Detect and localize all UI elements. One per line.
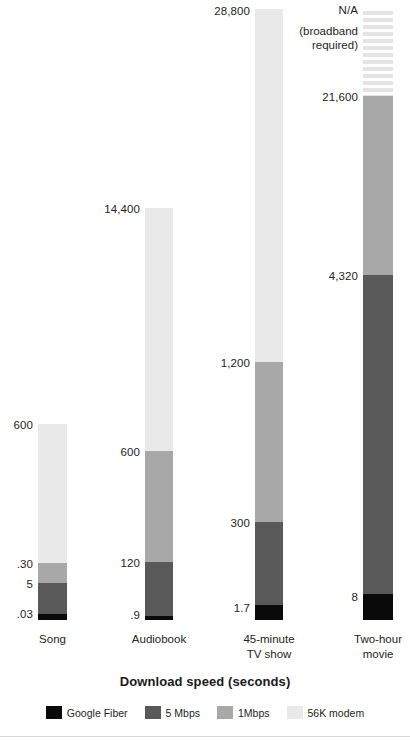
category-label-line1: Two-hour <box>318 632 410 647</box>
category-label-tv-show: 45-minute TV show <box>209 632 329 662</box>
legend-swatch-icon <box>145 706 161 719</box>
axis-title: Download speed (seconds) <box>0 674 410 689</box>
chart-legend: Google Fiber 5 Mbps 1Mbps 56K modem <box>0 706 410 719</box>
segment-value-label: 4,320 <box>329 271 358 283</box>
category-label-line1: 45-minute <box>209 632 329 647</box>
segment-56k-modem: 28,800 <box>255 9 283 362</box>
segment-google-fiber: .03 <box>38 614 67 620</box>
category-label-two-hour-movie: Two-hour movie <box>318 632 410 662</box>
segment-google-fiber: 8 <box>363 594 393 620</box>
legend-label: 1Mbps <box>238 707 270 719</box>
category-label-audiobook: Audiobook <box>99 632 219 647</box>
segment-1mbps: 21,600 <box>363 96 393 275</box>
segment-value-label: 600 <box>14 420 34 432</box>
download-speed-chart: 600 .30 5 .03 Song 14,400 <box>0 0 410 740</box>
category-label-song: Song <box>0 632 112 647</box>
segment-google-fiber: .9 <box>145 616 173 620</box>
segment-1mbps: 1,200 <box>255 362 283 522</box>
bar-group-two-hour-movie: N/A (broadband required) 21,600 4,320 8 … <box>363 0 393 628</box>
legend-item-google-fiber[interactable]: Google Fiber <box>46 706 128 719</box>
legend-label: 5 Mbps <box>166 707 200 719</box>
stacked-bar-audiobook: 14,400 600 120 .9 <box>145 208 173 620</box>
bar-group-audiobook: 14,400 600 120 .9 Audiobook <box>145 0 173 628</box>
segment-56k-modem-na: N/A (broadband required) <box>363 8 393 96</box>
segment-1mbps: 600 <box>145 451 173 562</box>
footer-divider <box>0 736 410 737</box>
segment-value-label: 600 <box>121 447 141 459</box>
segment-1mbps: .30 <box>38 563 67 583</box>
segment-value-label: 1,200 <box>221 358 250 370</box>
segment-google-fiber: 1.7 <box>255 605 283 620</box>
segment-value-label: .03 <box>17 609 33 621</box>
segment-5mbps: 120 <box>145 562 173 616</box>
stacked-bar-song: 600 .30 5 .03 <box>38 424 67 620</box>
stacked-bar-tv-show: 28,800 1,200 300 1.7 <box>255 9 283 620</box>
segment-5mbps: 300 <box>255 522 283 605</box>
segment-value-label: 300 <box>231 518 251 530</box>
legend-label: 56K modem <box>308 707 365 719</box>
plot-area: 600 .30 5 .03 Song 14,400 <box>0 0 410 628</box>
segment-56k-modem: 600 <box>38 424 67 563</box>
bar-group-tv-show: 28,800 1,200 300 1.7 45-minute TV show <box>255 0 283 628</box>
segment-value-label: 8 <box>352 592 359 604</box>
legend-label: Google Fiber <box>67 707 128 719</box>
segment-value-label: .30 <box>17 559 33 571</box>
category-label-line2: movie <box>318 647 410 662</box>
legend-swatch-icon <box>287 706 303 719</box>
segment-value-label: 1.7 <box>234 603 250 615</box>
segment-value-label: 5 <box>27 579 34 591</box>
segment-value-label: 28,800 <box>214 6 250 18</box>
legend-swatch-icon <box>217 706 233 719</box>
segment-5mbps: 4,320 <box>363 275 393 594</box>
na-note-line2: required) <box>312 38 358 52</box>
bar-group-song: 600 .30 5 .03 Song <box>38 0 67 628</box>
segment-value-label: 120 <box>121 558 141 570</box>
segment-value-label-na: N/A <box>339 5 358 17</box>
segment-5mbps: 5 <box>38 583 67 614</box>
legend-swatch-icon <box>46 706 62 719</box>
category-label-line2: TV show <box>209 647 329 662</box>
segment-value-label: .9 <box>130 610 140 622</box>
legend-item-1mbps[interactable]: 1Mbps <box>217 706 270 719</box>
segment-value-label: 14,400 <box>104 204 140 216</box>
stacked-bar-two-hour-movie: N/A (broadband required) 21,600 4,320 8 <box>363 8 393 620</box>
legend-item-56k-modem[interactable]: 56K modem <box>287 706 365 719</box>
segment-56k-modem: 14,400 <box>145 208 173 451</box>
segment-value-label: 21,600 <box>322 92 358 104</box>
legend-item-5mbps[interactable]: 5 Mbps <box>145 706 200 719</box>
na-note-line1: (broadband <box>299 24 358 38</box>
